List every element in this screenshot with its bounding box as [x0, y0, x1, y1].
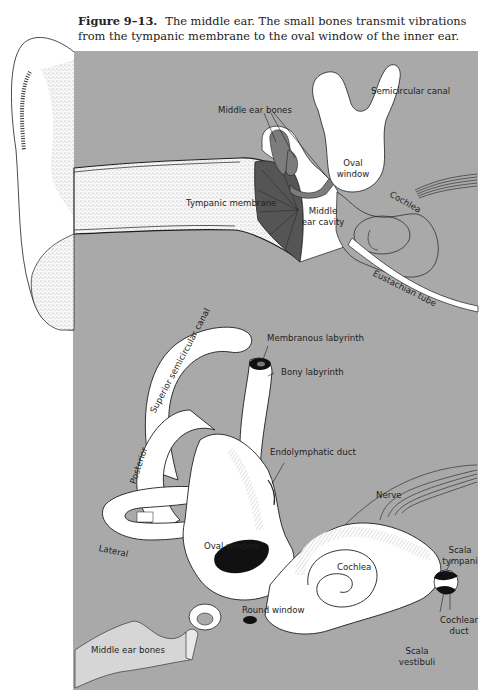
label-semicircular-canal: Semicircular canal: [371, 86, 450, 96]
label-cochlear-duct-line2: duct: [437, 626, 481, 636]
label-endolymphatic-duct: Endolymphatic duct: [270, 447, 356, 457]
label-tympanic-membrane: Tympanic membrane: [186, 198, 276, 208]
label-scala-vestibuli-line1: Scala: [395, 646, 439, 656]
label-scala-tympani-line2: tympani: [440, 556, 480, 566]
cochlea-upper: [336, 192, 438, 277]
round-window: [243, 616, 257, 624]
label-oval-window-upper-line2: window: [333, 169, 373, 179]
nerve-fibers-upper: [415, 174, 477, 198]
label-oval-window-upper-line1: Oval: [333, 158, 373, 168]
nerve-fibers-lower: [345, 465, 477, 525]
label-middle-ear-bones-upper: Middle ear bones: [218, 105, 292, 115]
label-scala-tympani-line1: Scala: [440, 545, 480, 555]
label-oval-window-lower: Oval window: [204, 541, 259, 551]
label-round-window: Round window: [242, 605, 305, 615]
label-middle-ear-bones-lower: Middle ear bones: [91, 645, 165, 655]
label-membranous-labyrinth: Membranous labyrinth: [267, 333, 364, 343]
label-scala-vestibuli-line2: vestibuli: [395, 657, 439, 667]
cochlea-lower: [265, 523, 458, 634]
label-cochlear-duct-line1: Cochlear: [437, 615, 481, 625]
label-bony-labyrinth: Bony labyrinth: [281, 367, 344, 377]
label-middle-ear-cavity-line1: Middle: [298, 206, 348, 216]
label-middle-ear-cavity-line2: ear cavity: [298, 217, 348, 227]
label-nerve: Nerve: [376, 490, 402, 500]
label-cochlea-lower: Cochlea: [337, 562, 371, 572]
